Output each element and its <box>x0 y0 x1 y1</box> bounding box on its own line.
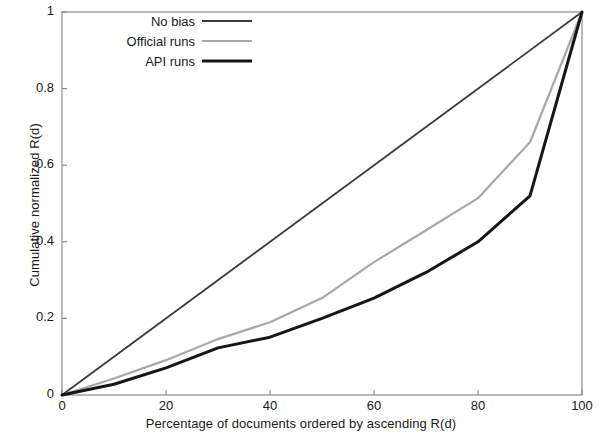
x-tick-label: 20 <box>146 398 186 413</box>
x-tick-label: 60 <box>354 398 394 413</box>
x-tick-label: 40 <box>250 398 290 413</box>
chart-figure: 020406080100 00.20.40.60.81 Percentage o… <box>0 0 602 438</box>
series-line-no-bias <box>62 12 582 395</box>
legend-item-official-runs: Official runs <box>35 34 195 49</box>
data-series-group <box>62 12 582 395</box>
x-tick-label: 100 <box>562 398 602 413</box>
y-axis-label: Cumulative normalized R(d) <box>27 123 42 287</box>
legend-item-no-bias: No bias <box>35 14 195 29</box>
legend-item-api-runs: API runs <box>35 54 195 69</box>
legend-line-samples <box>202 21 252 61</box>
x-axis-label: Percentage of documents ordered by ascen… <box>0 416 602 431</box>
x-tick-label: 80 <box>458 398 498 413</box>
